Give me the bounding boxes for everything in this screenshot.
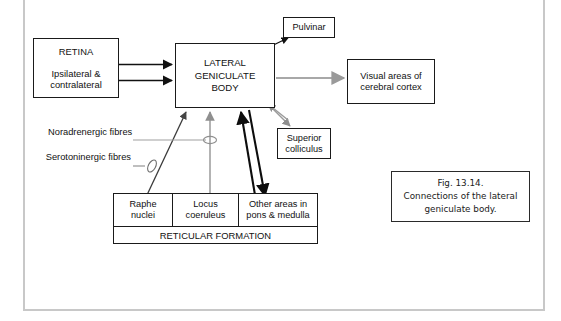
arrow-other-areas-to-lgb <box>241 112 255 195</box>
node-visual-cortex-line2: cerebral cortex <box>360 82 422 93</box>
serotoninergic-fibre-node-icon <box>146 159 158 174</box>
node-retina-line1: Ipsilateral & <box>52 68 101 79</box>
reticular-formation-label-text: RETICULAR FORMATION <box>160 230 271 241</box>
node-other-areas-line2: pons & medulla <box>246 210 309 221</box>
node-raphe-nuclei-line2: nuclei <box>131 210 155 221</box>
node-visual-areas-cerebral-cortex[interactable]: Visual areas of cerebral cortex <box>347 59 435 104</box>
label-serotoninergic-line1: Serotoninergic <box>46 152 106 162</box>
node-lateral-geniculate-body[interactable]: LATERAL GENICULATE BODY <box>175 43 275 108</box>
reticular-formation-cells-row: Raphe nuclei Locus coeruleus Other areas… <box>114 194 317 227</box>
label-noradrenergic-fibres: Noradrenergic fibres <box>48 127 131 138</box>
arrow-raphe-nuclei-to-lgb <box>147 112 186 195</box>
node-locus-coeruleus-line2: coeruleus <box>186 210 226 221</box>
node-other-areas-pons-medulla[interactable]: Other areas in pons & medulla <box>238 194 317 226</box>
node-raphe-nuclei[interactable]: Raphe nuclei <box>114 194 172 226</box>
node-other-areas-line1: Other areas in <box>249 199 307 210</box>
arrow-lgb-to-superior-colliculus <box>272 108 290 126</box>
node-superior-colliculus-line2: colliculus <box>285 144 322 155</box>
node-retina-line2: contralateral <box>50 79 102 90</box>
node-lgb-line2: GENICULATE <box>195 70 256 81</box>
figure-caption-number: Fig. 13.14. <box>437 177 483 190</box>
node-superior-colliculus[interactable]: Superior colliculus <box>277 128 331 159</box>
node-locus-coeruleus-line1: Locus <box>193 199 218 210</box>
node-visual-cortex-line1: Visual areas of <box>360 71 421 82</box>
node-pulvinar-label: Pulvinar <box>292 22 325 33</box>
node-locus-coeruleus[interactable]: Locus coeruleus <box>172 194 238 226</box>
node-retina-title: RETINA <box>59 46 93 57</box>
node-reticular-formation-group[interactable]: Raphe nuclei Locus coeruleus Other areas… <box>113 193 318 244</box>
node-superior-colliculus-line1: Superior <box>287 133 322 144</box>
node-lgb-line1: LATERAL <box>204 57 246 68</box>
figure-root: RETINA Ipsilateral & contralateral LATER… <box>0 0 561 321</box>
reticular-formation-label: RETICULAR FORMATION <box>114 227 317 243</box>
label-noradrenergic-line1: Noradrenergic <box>48 127 107 137</box>
figure-caption-line3: geniculate body. <box>424 203 496 216</box>
node-raphe-nuclei-line1: Raphe <box>129 199 156 210</box>
label-serotoninergic-fibres: Serotoninergic fibres <box>40 152 131 163</box>
figure-caption-line2: Connections of the lateral <box>404 190 518 203</box>
arrow-lgb-to-other-areas <box>249 110 265 196</box>
node-retina[interactable]: RETINA Ipsilateral & contralateral <box>33 38 119 98</box>
label-serotoninergic-line2: fibres <box>108 152 131 162</box>
figure-caption-box: Fig. 13.14. Connections of the lateral g… <box>391 171 530 222</box>
label-noradrenergic-line2: fibres <box>110 127 133 137</box>
node-lgb-line3: BODY <box>211 82 238 93</box>
node-pulvinar[interactable]: Pulvinar <box>283 17 335 38</box>
